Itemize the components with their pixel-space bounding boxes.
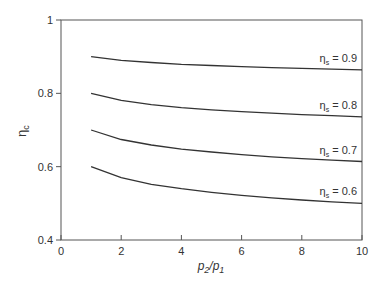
y-tick-label: 0.4: [38, 234, 53, 246]
x-tick-label: 10: [356, 245, 368, 257]
x-tick-label: 0: [58, 245, 64, 257]
curve-label: ηs = 0.6: [320, 185, 357, 199]
x-axis-ticks: 0246810: [58, 235, 368, 257]
curve-labels: ηs = 0.9ηs = 0.8ηs = 0.7ηs = 0.6: [320, 52, 357, 199]
x-tick-label: 6: [239, 245, 245, 257]
curve-label: ηs = 0.7: [320, 144, 357, 158]
plot-frame: [61, 20, 362, 240]
y-tick-label: 1: [47, 14, 53, 26]
curve-label: ηs = 0.9: [320, 52, 357, 66]
y-tick-label: 0.6: [38, 161, 53, 173]
curve-label: ηs = 0.8: [320, 99, 357, 113]
chart: 0.40.60.81 0246810 ηs = 0.9ηs = 0.8ηs = …: [0, 0, 385, 283]
x-tick-label: 2: [118, 245, 124, 257]
x-tick-label: 8: [299, 245, 305, 257]
x-tick-label: 4: [178, 245, 184, 257]
x-axis-label: p2/p1: [197, 259, 225, 275]
curves: [91, 57, 362, 204]
y-axis-ticks: 0.40.60.81: [38, 14, 61, 246]
y-axis-label: ηc: [14, 125, 31, 137]
y-tick-label: 0.8: [38, 87, 53, 99]
